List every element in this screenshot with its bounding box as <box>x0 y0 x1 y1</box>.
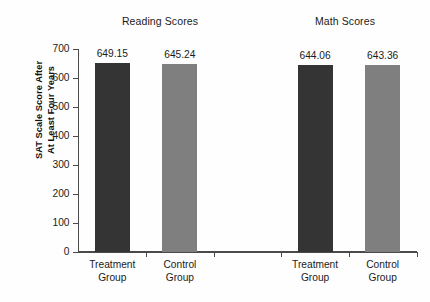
plot-area: 0100200300400500600700 649.15645.24644.0… <box>79 49 417 252</box>
x-axis-tick-mark <box>214 252 215 257</box>
y-axis-tick-mark <box>73 136 78 137</box>
y-axis-tick-label: 100 <box>53 217 70 227</box>
x-axis-category-label: ControlGroup <box>138 258 222 284</box>
bar-chart: Reading Scores Math Scores SAT Scale Sco… <box>0 0 430 302</box>
y-axis-tick-label: 500 <box>53 101 70 111</box>
y-axis-tick-label: 300 <box>53 159 70 169</box>
y-axis-line <box>78 49 79 252</box>
group-title-math-scores: Math Scores <box>290 15 400 27</box>
x-axis-category-label: ControlGroup <box>341 258 425 284</box>
x-axis-category-label-line: Group <box>341 271 425 284</box>
x-axis-category-label-line: Group <box>138 271 222 284</box>
bar-value-label: 649.15 <box>97 49 128 59</box>
bar-reading-scores-control-group: 645.24 <box>162 64 197 251</box>
y-axis-tick-label: 700 <box>53 43 70 53</box>
bar-reading-scores-treatment-group: 649.15 <box>95 63 130 251</box>
bar-value-label: 644.06 <box>299 51 330 61</box>
y-axis-tick-mark <box>73 165 78 166</box>
x-axis-tick-mark <box>349 252 350 257</box>
x-axis-category-label-line: Control <box>138 258 222 271</box>
y-axis-tick-label: 600 <box>53 72 70 82</box>
y-axis-tick-label: 0 <box>64 246 70 256</box>
group-title-reading-scores: Reading Scores <box>101 15 219 27</box>
y-axis-tick-mark <box>73 252 78 253</box>
y-axis-tick-mark <box>73 107 78 108</box>
y-axis-tick-mark <box>73 194 78 195</box>
y-axis-tick-mark <box>73 223 78 224</box>
bar-value-label: 645.24 <box>164 50 195 60</box>
x-axis-tick-mark <box>417 252 418 257</box>
y-axis-tick-label: 400 <box>53 130 70 140</box>
y-axis-tick-label: 200 <box>53 188 70 198</box>
bar-value-label: 643.36 <box>367 51 398 61</box>
y-axis-tick-mark <box>73 78 78 79</box>
x-axis-tick-mark <box>146 252 147 257</box>
x-axis-category-label-line: Control <box>341 258 425 271</box>
y-axis-tick-mark <box>73 49 78 50</box>
bar-math-scores-treatment-group: 644.06 <box>298 65 333 252</box>
bar-math-scores-control-group: 643.36 <box>365 65 400 252</box>
x-axis-tick-mark <box>281 252 282 257</box>
y-axis-title-line-1: SAT Scale Score After <box>33 15 45 205</box>
